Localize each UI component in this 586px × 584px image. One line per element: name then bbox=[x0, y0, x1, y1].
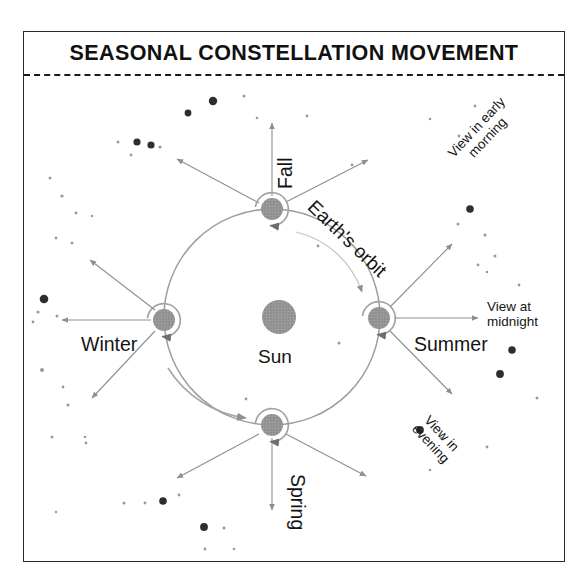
sun-label: Sun bbox=[258, 346, 292, 367]
page-title: SEASONAL CONSTELLATION MOVEMENT bbox=[70, 41, 519, 66]
season-label-fall: Fall bbox=[275, 157, 297, 188]
season-label-winter: Winter bbox=[81, 334, 137, 356]
view-midnight-line1: View at bbox=[487, 299, 538, 314]
view-midnight-line2: midnight bbox=[487, 314, 538, 329]
diagram-stage: SEASONAL CONSTELLATION MOVEMENT Sun Eart… bbox=[0, 0, 586, 584]
season-label-summer: Summer bbox=[414, 334, 488, 356]
season-label-spring: Spring bbox=[286, 474, 308, 530]
view-label-midnight: View at midnight bbox=[487, 299, 538, 329]
title-band: SEASONAL CONSTELLATION MOVEMENT bbox=[24, 32, 564, 75]
title-divider bbox=[24, 74, 564, 76]
